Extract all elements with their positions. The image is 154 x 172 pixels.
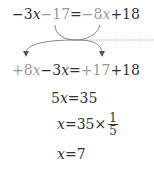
- rhs: =35: [68, 90, 98, 106]
- fraction: 15: [108, 112, 118, 137]
- equation-step-3: 5x=35: [51, 90, 97, 106]
- rhs: =35×: [65, 116, 106, 132]
- variable: x: [57, 146, 65, 162]
- right-arrowhead-icon: [99, 51, 105, 57]
- left-arrow-curve: [26, 40, 75, 52]
- result: =7: [65, 146, 86, 162]
- variable: x: [61, 62, 69, 78]
- left-arrowhead-icon: [23, 51, 29, 57]
- curve-arc: [55, 25, 100, 40]
- right-arrow-curve: [75, 40, 102, 52]
- equals: =: [70, 6, 82, 22]
- term: +18: [110, 6, 140, 22]
- moved-term: +8: [12, 62, 33, 78]
- moved-term: +17: [81, 62, 111, 78]
- variable: x: [33, 6, 41, 22]
- term: −3: [12, 6, 33, 22]
- equation-step-1: −3x−17=−8x+18: [12, 6, 140, 22]
- variable: x: [33, 62, 41, 78]
- equals: =: [69, 62, 81, 78]
- term: +18: [110, 62, 140, 78]
- term: −3: [41, 62, 62, 78]
- equation-step-2: +8x−3x=+17+18: [12, 62, 140, 78]
- coefficient: 5: [51, 90, 60, 106]
- moved-term: −8: [82, 6, 103, 22]
- moved-term: −17: [41, 6, 71, 22]
- equation-step-5: x=7: [57, 146, 86, 162]
- variable: x: [60, 90, 68, 106]
- denominator: 5: [108, 125, 118, 137]
- variable: x: [57, 116, 65, 132]
- equation-step-4: x=35×15: [57, 112, 118, 137]
